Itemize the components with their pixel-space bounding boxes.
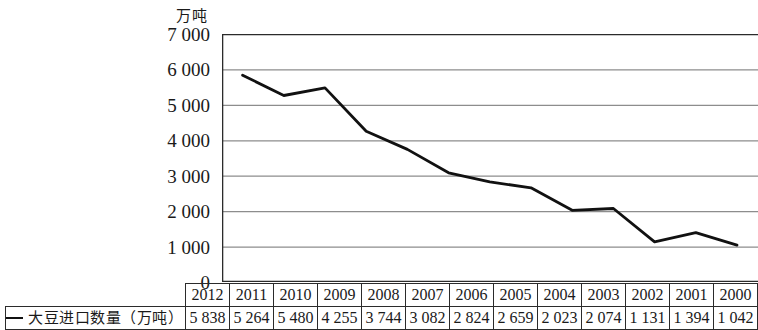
value-cell: 1 131 [626,307,670,330]
value-cell: 2 659 [494,307,538,330]
year-cell: 2005 [494,284,538,307]
year-cell: 2007 [406,284,450,307]
legend-cell: 大豆进口数量（万吨） [6,307,186,330]
value-cell: 5 264 [230,307,274,330]
y-tick-label: 3 000 [167,166,210,185]
table-row-years: 2012201120102009200820072006200520042003… [6,284,758,307]
plot-frame [223,34,758,282]
year-cell: 2012 [186,284,230,307]
gridlines [223,70,758,247]
legend-line-swatch-icon [6,317,24,319]
y-tick-label: 5 000 [167,95,210,114]
value-cell: 1 394 [670,307,714,330]
soybean-import-line-chart: 万吨 7 0006 0005 0004 0003 0002 0001 0000 … [0,0,758,330]
y-tick-label: 6 000 [167,60,210,79]
value-cell: 5 838 [186,307,230,330]
y-tick-label: 2 000 [167,202,210,221]
value-cell: 2 023 [538,307,582,330]
year-cell: 2001 [670,284,714,307]
year-cell: 2009 [318,284,362,307]
year-cell: 2008 [362,284,406,307]
plot-area [222,34,758,282]
value-cell: 3 744 [362,307,406,330]
value-cell: 1 042 [714,307,758,330]
value-cell: 2 074 [582,307,626,330]
value-cell: 5 480 [274,307,318,330]
year-cell: 2002 [626,284,670,307]
year-cell: 2011 [230,284,274,307]
value-cell: 4 255 [318,307,362,330]
value-cell: 3 082 [406,307,450,330]
plot-svg [222,34,758,282]
data-line [243,75,737,245]
year-cell: 2006 [450,284,494,307]
y-axis-tick-labels: 7 0006 0005 0004 0003 0002 0001 0000 [150,34,216,282]
table-corner-cell [6,284,186,307]
table-row-values: 大豆进口数量（万吨）5 8385 2645 4804 2553 7443 082… [6,307,758,330]
year-cell: 2004 [538,284,582,307]
year-cell: 2003 [582,284,626,307]
y-tick-label: 4 000 [167,131,210,150]
y-axis-unit-label: 万吨 [176,4,207,25]
y-tick-label: 1 000 [167,237,210,256]
data-table: 2012201120102009200820072006200520042003… [5,283,758,330]
y-tick-label: 7 000 [167,25,210,44]
year-cell: 2000 [714,284,758,307]
value-cell: 2 824 [450,307,494,330]
legend-label: 大豆进口数量（万吨） [28,308,183,328]
year-cell: 2010 [274,284,318,307]
